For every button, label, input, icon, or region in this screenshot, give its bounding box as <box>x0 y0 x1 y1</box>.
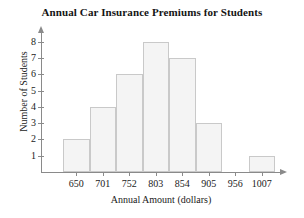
x-axis-tick-label: 1007 <box>242 178 282 189</box>
histogram-bar <box>116 74 143 172</box>
x-axis-tick-mark <box>76 172 77 176</box>
x-axis-tick-mark <box>103 172 104 176</box>
histogram-bar <box>196 123 223 172</box>
histogram-bar <box>249 156 276 172</box>
x-axis-tick-mark <box>262 172 263 176</box>
x-axis-tick-mark <box>156 172 157 176</box>
histogram-bar <box>143 42 170 172</box>
x-axis-title: Annual Amount (dollars) <box>41 194 281 205</box>
x-axis-tick-mark <box>129 172 130 176</box>
histogram-bar <box>63 139 90 172</box>
x-axis-tick-mark <box>209 172 210 176</box>
x-axis-tick-mark <box>235 172 236 176</box>
bars-group: 6507017528038549059561007 <box>0 0 304 218</box>
x-axis-tick-mark <box>182 172 183 176</box>
histogram-bar <box>169 58 196 172</box>
histogram-chart: Annual Car Insurance Premiums for Studen… <box>0 0 304 218</box>
histogram-bar <box>90 107 117 172</box>
